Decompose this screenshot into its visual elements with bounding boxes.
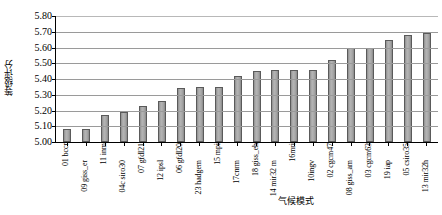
x-label-slot: 17cnrm — [227, 143, 246, 195]
x-label-slot: 18 giss_eh — [246, 143, 265, 195]
x-label-slot: 01 bccr — [57, 143, 76, 195]
bar[interactable] — [177, 88, 185, 142]
x-label-slot: 06 gfdl20 — [170, 143, 189, 195]
y-tick-label: 5.00 — [35, 137, 53, 147]
bar[interactable] — [271, 70, 279, 142]
x-label-slot: 09 giss_er — [76, 143, 95, 195]
y-axis-tick-labels: 5.805.705.605.505.405.305.205.105.00 — [16, 0, 54, 215]
x-tick-label: 16mri — [289, 143, 297, 162]
x-tick-label: 01 bccr — [62, 143, 70, 166]
x-label-slot: 10ingv — [303, 143, 322, 195]
y-tick-mark — [52, 95, 56, 96]
x-label-slot: 05 csiro35 — [397, 143, 416, 195]
gridline — [56, 111, 438, 112]
y-tick-mark — [52, 16, 56, 17]
x-label-slot: 02 cgcm47 — [322, 143, 341, 195]
x-label-slot: 14 mir32 m — [265, 143, 284, 195]
x-tick-label: 14 mir32 m — [270, 160, 278, 196]
gridline — [56, 48, 438, 49]
y-tick-label: 5.40 — [35, 74, 53, 84]
x-tick-label: 05 csiro35 — [403, 143, 411, 176]
bar[interactable] — [234, 76, 242, 142]
y-tick-mark — [52, 63, 56, 64]
y-tick-label: 5.50 — [35, 58, 53, 68]
x-tick-label: 03 cgcm63 — [365, 143, 373, 177]
x-tick-label: 18 giss_eh — [252, 143, 260, 176]
bar[interactable] — [82, 129, 90, 142]
x-tick-label: 11 inm — [100, 143, 108, 165]
y-tick-label: 5.70 — [35, 27, 53, 37]
x-label-slot: 12 ipsl — [152, 143, 171, 195]
bar[interactable] — [101, 115, 109, 142]
y-tick-label: 5.30 — [35, 90, 53, 100]
y-tick-label: 5.10 — [35, 121, 53, 131]
bar[interactable] — [290, 70, 298, 142]
y-tick-mark — [52, 48, 56, 49]
x-label-slot: 15 mpi — [208, 143, 227, 195]
x-tick-label: 02 cgcm47 — [327, 143, 335, 177]
y-tick-mark — [52, 126, 56, 127]
x-axis-tick-labels: 01 bccr09 giss_er11 inm04c siro3007 gfdl… — [55, 143, 437, 195]
bar[interactable] — [63, 129, 71, 142]
x-tick-label: 17cnrm — [233, 160, 241, 184]
gridline — [56, 79, 438, 80]
bar[interactable] — [158, 101, 166, 142]
x-label-slot: 11 inm — [95, 143, 114, 195]
bar[interactable] — [309, 70, 317, 142]
x-tick-label: 19 iap — [384, 160, 392, 179]
x-label-slot: 23 hadgem — [189, 143, 208, 195]
bar[interactable] — [253, 71, 261, 142]
x-tick-label: 23 hadgem — [195, 160, 203, 194]
x-tick-label: 04c siro30 — [119, 160, 127, 193]
bar[interactable] — [328, 60, 336, 142]
gridline — [56, 126, 438, 127]
gridline — [56, 16, 438, 17]
x-label-slot: 07 gfdl21 — [133, 143, 152, 195]
x-tick-label: 15 mpi — [214, 143, 222, 165]
gridline — [56, 32, 438, 33]
x-tick-label: 07 gfdl21 — [138, 143, 146, 173]
x-label-slot: 04c siro30 — [114, 143, 133, 195]
x-tick-label: 12 ipsl — [157, 160, 165, 181]
x-label-slot: 03 cgcm63 — [360, 143, 379, 195]
bar-chart: 等级评分 5.805.705.605.505.405.305.205.105.0… — [0, 0, 442, 215]
y-axis-title: 等级评分 — [2, 18, 16, 138]
x-label-slot: 16mri — [284, 143, 303, 195]
y-tick-mark — [52, 32, 56, 33]
x-label-slot: 08 giss_am — [341, 143, 360, 195]
gridline — [56, 63, 438, 64]
x-label-slot: 13 mir32h — [416, 143, 435, 195]
plot-area — [55, 16, 438, 143]
x-tick-label: 10ingv — [308, 160, 316, 182]
y-tick-label: 5.60 — [35, 43, 53, 53]
y-tick-label: 5.80 — [35, 11, 53, 21]
x-label-slot: 19 iap — [378, 143, 397, 195]
y-tick-mark — [52, 111, 56, 112]
y-tick-mark — [52, 79, 56, 80]
x-tick-label: 13 mir32h — [422, 160, 430, 192]
x-tick-label: 09 giss_er — [81, 160, 89, 192]
x-tick-label: 06 gfdl20 — [176, 143, 184, 173]
y-tick-label: 5.20 — [35, 106, 53, 116]
x-axis-title: 气候模式 — [0, 196, 442, 207]
gridline — [56, 95, 438, 96]
x-tick-label: 08 giss_am — [346, 160, 354, 195]
